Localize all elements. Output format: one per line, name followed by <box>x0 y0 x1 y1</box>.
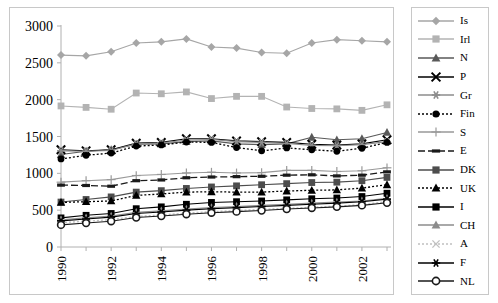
data-point-dash-marker <box>383 170 391 173</box>
data-point-triangle <box>383 128 391 136</box>
data-point-circle <box>384 139 391 146</box>
data-point-circle <box>308 146 315 153</box>
x-tick-label: 1998 <box>255 256 270 282</box>
data-point-square <box>208 95 215 102</box>
data-point-square <box>158 90 165 97</box>
legend-key-open-circle-icon <box>416 274 456 288</box>
legend-item-I[interactable]: I <box>412 198 488 216</box>
data-point-circle <box>432 110 439 117</box>
legend-label: DK <box>460 164 476 175</box>
legend-key-star-icon <box>416 88 456 102</box>
data-point-dash-marker <box>182 176 190 179</box>
data-point-diamond <box>283 49 291 57</box>
line-chart: 0500100015002000250030001990199219941996… <box>10 8 393 294</box>
legend-key-triangle-icon <box>416 181 456 195</box>
data-point-circle <box>208 139 215 146</box>
data-point-plus <box>107 175 116 184</box>
data-point-circle <box>83 152 90 159</box>
legend-item-UK[interactable]: UK <box>412 179 488 197</box>
data-point-diamond <box>233 44 241 52</box>
data-point-dash-marker <box>107 185 115 188</box>
data-point-open-circle <box>258 207 265 214</box>
legend-item-DK[interactable]: DK <box>412 161 488 179</box>
legend-key-square-icon <box>416 32 456 46</box>
data-point-open-circle <box>158 213 165 220</box>
legend-item-N[interactable]: N <box>412 49 488 67</box>
data-point-open-circle <box>432 278 439 285</box>
legend-label: Fin <box>460 108 475 119</box>
data-point-circle <box>333 148 340 155</box>
chart-screenshot: 0500100015002000250030001990199219941996… <box>0 0 498 303</box>
legend-label: S <box>460 127 466 138</box>
legend-item-Is[interactable]: Is <box>412 12 488 30</box>
data-point-triangle <box>383 180 391 188</box>
data-point-square <box>233 93 240 100</box>
data-point-circle <box>158 142 165 149</box>
legend-item-Irl[interactable]: Irl <box>412 31 488 49</box>
data-point-triangle <box>308 133 316 141</box>
data-point-plus <box>431 128 440 137</box>
data-point-diamond <box>182 35 190 43</box>
series-S <box>57 163 392 186</box>
data-point-diamond <box>333 36 341 44</box>
data-point-square <box>308 179 315 186</box>
data-point-open-circle <box>283 206 290 213</box>
data-point-dash-marker <box>233 175 241 178</box>
data-point-dash-marker <box>283 174 291 177</box>
legend-item-E[interactable]: E <box>412 142 488 160</box>
legend-item-Fin[interactable]: Fin <box>412 105 488 123</box>
series-Irl <box>58 89 391 114</box>
data-point-open-circle <box>359 202 366 209</box>
y-tick-label: 0 <box>46 240 53 255</box>
x-tick-label: 1994 <box>154 256 169 283</box>
legend-label: N <box>460 52 468 63</box>
data-point-circle <box>359 145 366 152</box>
x-tick-label: 1996 <box>204 256 219 283</box>
data-point-dash-marker <box>132 179 140 182</box>
y-tick-label: 1000 <box>25 166 53 181</box>
legend-label: Irl <box>460 34 470 45</box>
legend-item-NL[interactable]: NL <box>412 272 488 290</box>
data-point-circle <box>133 143 140 150</box>
data-point-square <box>183 89 190 96</box>
data-point-plus <box>282 166 291 175</box>
data-point-diamond <box>358 37 366 45</box>
data-point-diamond <box>107 48 115 56</box>
legend-key-square-icon <box>416 200 456 214</box>
data-point-square <box>384 174 391 181</box>
series-Is <box>57 35 391 60</box>
legend-label: I <box>460 201 464 212</box>
data-point-dash-marker <box>157 178 165 181</box>
x-tick-label: 1992 <box>104 256 119 282</box>
legend-key-triangle-icon <box>416 218 456 232</box>
data-point-diamond <box>157 38 165 46</box>
legend-key-plus-icon <box>416 125 456 139</box>
data-point-star <box>432 92 440 99</box>
x-tick-label: 2002 <box>355 256 370 282</box>
data-point-open-circle <box>308 205 315 212</box>
data-point-diamond <box>132 39 140 47</box>
legend-key-dash-marker-icon <box>416 144 456 158</box>
data-point-plus <box>207 168 216 177</box>
legend-item-A[interactable]: A <box>412 235 488 253</box>
data-point-dash-marker <box>258 175 266 178</box>
y-tick-label: 2000 <box>25 93 53 108</box>
legend-key-cross-icon <box>416 70 456 84</box>
legend-label: Gr <box>460 90 472 101</box>
series-F <box>57 196 391 225</box>
data-point-open-circle <box>183 211 190 218</box>
legend-item-P[interactable]: P <box>412 68 488 86</box>
legend-label: P <box>460 71 466 82</box>
legend-item-Gr[interactable]: Gr <box>412 86 488 104</box>
data-point-open-circle <box>208 209 215 216</box>
legend-key-star-icon <box>416 256 456 270</box>
data-point-square <box>258 93 265 100</box>
data-point-square <box>432 203 439 210</box>
legend-item-CH[interactable]: CH <box>412 217 488 235</box>
data-point-open-circle <box>133 214 140 221</box>
data-point-open-circle <box>58 222 65 229</box>
legend-item-S[interactable]: S <box>412 124 488 142</box>
data-point-square <box>432 166 439 173</box>
legend-item-F[interactable]: F <box>412 254 488 272</box>
data-point-circle <box>233 144 240 151</box>
